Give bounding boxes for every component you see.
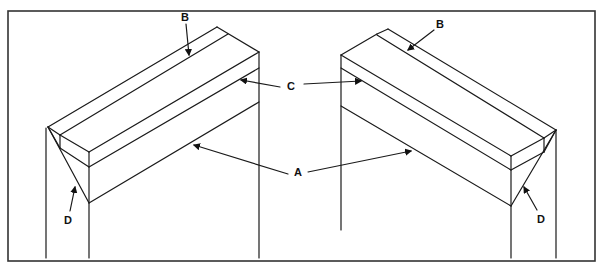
callout-label-b-left: B: [181, 12, 189, 23]
right-joint-view: [341, 29, 556, 258]
callout-label-a: A: [294, 167, 302, 178]
callout-label-d-left: D: [64, 215, 72, 226]
left-joint-view: [46, 27, 259, 258]
callout-label-c: C: [287, 81, 295, 92]
diagram-canvas: B B C A D D: [0, 0, 602, 270]
callout-label-d-right: D: [537, 214, 545, 225]
diagram-frame: [8, 11, 595, 261]
joint-diagram: [0, 0, 602, 270]
callout-leaders: [70, 24, 537, 211]
callout-label-b-right: B: [436, 19, 444, 30]
